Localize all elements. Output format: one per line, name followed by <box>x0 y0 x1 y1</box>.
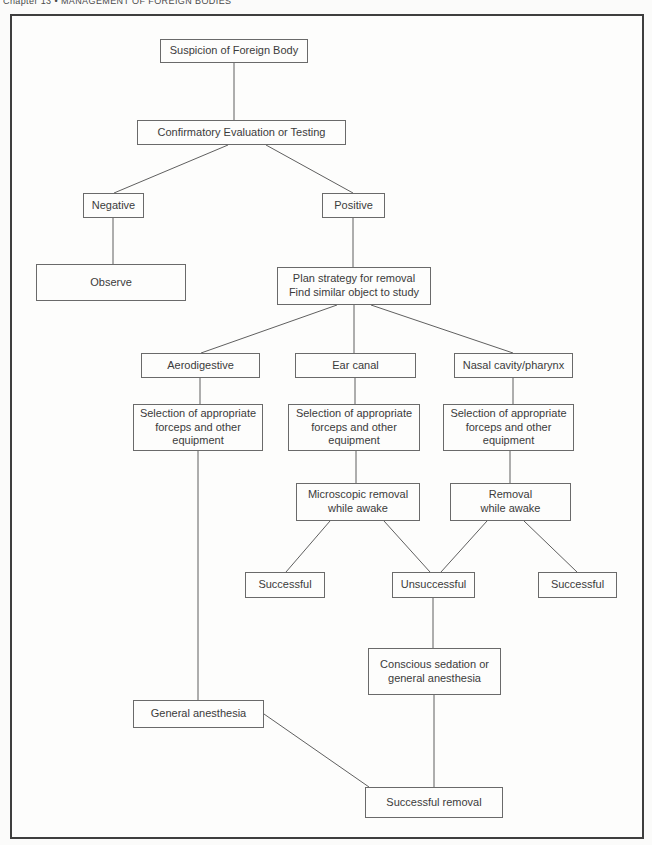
flow-node-general-anesthesia: General anesthesia <box>133 700 264 728</box>
flow-node-plan-strategy: Plan strategy for removal Find similar o… <box>277 267 431 305</box>
flow-node-microscopic-removal: Microscopic removal while awake <box>296 483 420 521</box>
flow-node-conscious-sedation: Conscious sedation or general anesthesia <box>368 648 501 695</box>
flow-node-negative: Negative <box>83 193 144 218</box>
running-header: Chapter 13 • MANAGEMENT OF FOREIGN BODIE… <box>3 0 423 8</box>
flow-node-successful-removal: Successful removal <box>365 787 503 818</box>
flowchart-page: Chapter 13 • MANAGEMENT OF FOREIGN BODIE… <box>0 0 652 845</box>
flow-node-unsuccessful: Unsuccessful <box>392 572 475 598</box>
flow-node-removal-awake: Removal while awake <box>450 483 571 521</box>
flow-node-aerodigestive: Aerodigestive <box>141 353 260 378</box>
flow-node-selection-aero: Selection of appropriate forceps and oth… <box>133 404 263 451</box>
flow-node-confirmatory: Confirmatory Evaluation or Testing <box>137 120 346 145</box>
flow-node-ear-canal: Ear canal <box>295 353 416 378</box>
flow-node-selection-nasal: Selection of appropriate forceps and oth… <box>443 404 574 451</box>
flow-node-nasal-cavity: Nasal cavity/pharynx <box>454 353 573 378</box>
flow-node-successful-left: Successful <box>245 572 325 598</box>
flow-node-suspicion: Suspicion of Foreign Body <box>160 39 308 63</box>
running-header-text: Chapter 13 • MANAGEMENT OF FOREIGN BODIE… <box>3 0 423 6</box>
flow-node-selection-ear: Selection of appropriate forceps and oth… <box>288 404 420 451</box>
flow-node-observe: Observe <box>36 264 186 301</box>
flow-node-successful-right: Successful <box>538 572 617 598</box>
flow-node-positive: Positive <box>322 193 385 218</box>
